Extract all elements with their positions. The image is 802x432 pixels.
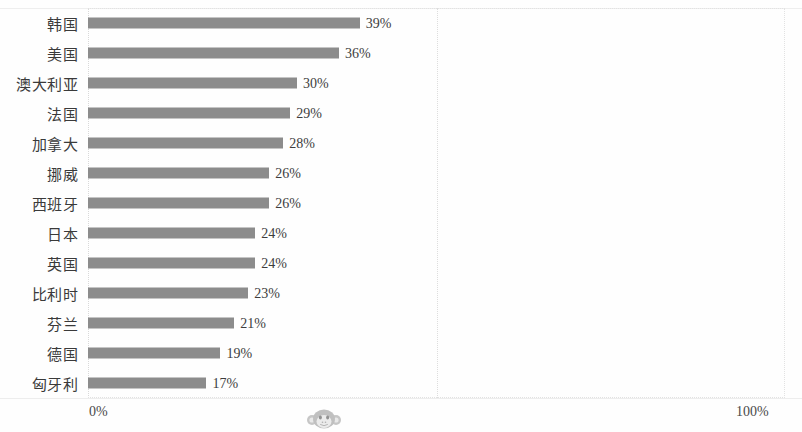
bar	[88, 198, 269, 209]
bar	[88, 258, 255, 269]
category-label: 西班牙	[0, 193, 78, 214]
bar	[88, 378, 206, 389]
bar-value-label: 28%	[289, 135, 315, 151]
bar-value-label: 23%	[254, 285, 280, 301]
bar	[88, 318, 234, 329]
bar	[88, 348, 220, 359]
category-label: 英国	[0, 253, 78, 274]
category-label: 匈牙利	[0, 373, 78, 394]
plot-area: 韩国39%美国36%澳大利亚30%法国29%加拿大28%挪威26%西班牙26%日…	[0, 8, 802, 398]
bar-row: 挪威26%	[0, 158, 802, 188]
bar-row: 美国36%	[0, 38, 802, 68]
bar	[88, 108, 290, 119]
category-label: 法国	[0, 103, 78, 124]
bar-row: 韩国39%	[0, 8, 802, 38]
category-label: 挪威	[0, 163, 78, 184]
monkey-face-watermark	[304, 409, 344, 429]
bar-value-label: 26%	[275, 165, 301, 181]
category-label: 加拿大	[0, 133, 78, 154]
category-label: 澳大利亚	[0, 73, 78, 94]
category-label: 比利时	[0, 283, 78, 304]
x-axis-min-label: 0%	[89, 404, 108, 420]
bar-row: 芬兰21%	[0, 308, 802, 338]
category-label: 芬兰	[0, 313, 78, 334]
bar	[88, 78, 297, 89]
bar	[88, 228, 255, 239]
bar-row: 法国29%	[0, 98, 802, 128]
bar-row: 澳大利亚30%	[0, 68, 802, 98]
bar	[88, 48, 339, 59]
bar-row: 德国19%	[0, 338, 802, 368]
bar-row: 加拿大28%	[0, 128, 802, 158]
bar-value-label: 36%	[345, 45, 371, 61]
bar-value-label: 24%	[261, 255, 287, 271]
bar-row: 英国24%	[0, 248, 802, 278]
bar	[88, 168, 269, 179]
bar-value-label: 21%	[240, 315, 266, 331]
bar-value-label: 39%	[366, 15, 392, 31]
bar-value-label: 17%	[212, 375, 238, 391]
bar-chart: 韩国39%美国36%澳大利亚30%法国29%加拿大28%挪威26%西班牙26%日…	[0, 0, 802, 432]
category-label: 美国	[0, 43, 78, 64]
x-axis-max-label: 100%	[736, 404, 769, 420]
chart-bottom-rule	[0, 398, 802, 399]
category-label: 韩国	[0, 13, 78, 34]
bar	[88, 288, 248, 299]
bar	[88, 18, 360, 29]
category-label: 日本	[0, 223, 78, 244]
bar-row: 日本24%	[0, 218, 802, 248]
bar	[88, 138, 283, 149]
bar-value-label: 29%	[296, 105, 322, 121]
category-label: 德国	[0, 343, 78, 364]
bar-value-label: 24%	[261, 225, 287, 241]
bar-row: 西班牙26%	[0, 188, 802, 218]
bar-value-label: 19%	[226, 345, 252, 361]
bar-value-label: 30%	[303, 75, 329, 91]
gridline-vertical	[437, 8, 438, 398]
bar-value-label: 26%	[275, 195, 301, 211]
bar-row: 匈牙利17%	[0, 368, 802, 398]
bar-row: 比利时23%	[0, 278, 802, 308]
